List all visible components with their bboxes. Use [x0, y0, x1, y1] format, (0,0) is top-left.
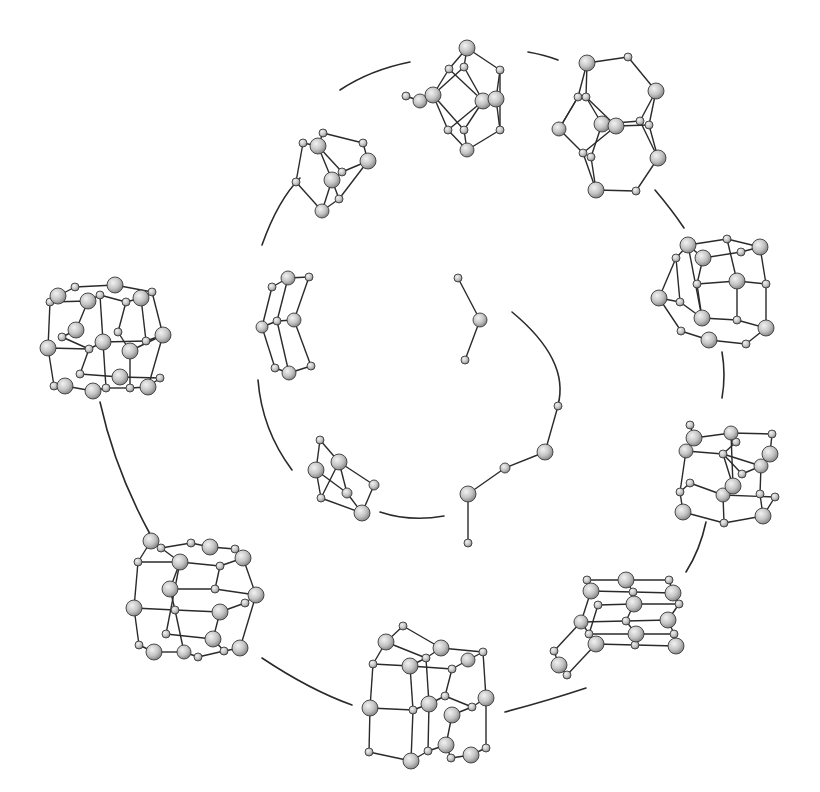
small-atom-sphere — [241, 599, 249, 607]
large-atom-sphere — [287, 313, 301, 327]
large-atom-sphere — [57, 378, 73, 394]
spiral-arc-segment — [100, 402, 150, 534]
small-atom-sphere — [256, 321, 268, 333]
spiral-arc-segment — [380, 512, 444, 518]
small-atom-sphere — [317, 494, 325, 502]
small-atom-sphere — [500, 463, 510, 473]
large-atom-sphere — [650, 150, 666, 166]
large-atom-sphere — [626, 596, 642, 612]
spiral-arc-segment — [505, 688, 586, 712]
small-atom-sphere — [85, 345, 93, 353]
small-atom-sphere — [316, 436, 324, 444]
large-atom-sphere — [177, 645, 191, 659]
small-atom-sphere — [670, 630, 678, 638]
small-atom-sphere — [574, 93, 582, 101]
large-atom-sphere — [143, 533, 159, 549]
large-atom-sphere — [680, 237, 696, 253]
cluster-1-trimer — [454, 274, 487, 364]
large-atom-sphere — [310, 138, 326, 154]
bond-line — [277, 321, 289, 373]
spiral-arc-segment — [262, 658, 352, 705]
cluster-group — [40, 40, 779, 769]
small-atom-sphere — [338, 168, 346, 176]
small-atom-sphere — [96, 291, 104, 299]
spiral-arc-segment — [722, 352, 724, 398]
large-atom-sphere — [488, 91, 504, 107]
large-atom-sphere — [354, 505, 370, 521]
large-atom-sphere — [463, 747, 479, 763]
spiral-arc-segment — [655, 190, 684, 228]
large-atom-sphere — [460, 143, 474, 157]
large-atom-sphere — [594, 116, 610, 132]
small-atom-sphere — [632, 187, 640, 195]
small-atom-sphere — [624, 53, 632, 61]
large-atom-sphere — [95, 334, 111, 350]
small-atom-sphere — [733, 316, 741, 324]
large-atom-sphere — [588, 182, 604, 198]
cluster-2-chain — [460, 402, 562, 547]
large-atom-sphere — [686, 430, 702, 446]
small-atom-sphere — [693, 280, 701, 288]
small-atom-sphere — [762, 280, 770, 288]
cluster-3 — [308, 436, 379, 521]
large-atom-sphere — [112, 369, 128, 385]
small-atom-sphere — [686, 479, 694, 487]
small-atom-sphere — [496, 126, 504, 134]
small-atom-sphere — [187, 539, 195, 547]
small-atom-sphere — [445, 65, 453, 73]
small-atom-sphere — [142, 337, 150, 345]
large-atom-sphere — [378, 634, 394, 650]
small-atom-sphere — [677, 327, 685, 335]
small-atom-sphere — [738, 470, 746, 478]
small-atom-sphere — [424, 747, 432, 755]
large-atom-sphere — [551, 657, 567, 673]
large-atom-sphere — [248, 587, 264, 603]
large-atom-sphere — [146, 644, 162, 660]
small-atom-sphere — [134, 558, 142, 566]
small-atom-sphere — [71, 283, 79, 291]
large-atom-sphere — [68, 322, 84, 338]
large-atom-sphere — [660, 612, 676, 628]
cluster-10 — [550, 572, 684, 679]
small-atom-sphere — [675, 600, 683, 608]
cluster-8 — [651, 235, 774, 348]
small-atom-sphere — [460, 126, 468, 134]
small-atom-sphere — [636, 117, 644, 125]
large-atom-sphere — [282, 366, 296, 380]
small-atom-sphere — [676, 298, 684, 306]
large-atom-sphere — [461, 653, 475, 667]
small-atom-sphere — [461, 356, 469, 364]
large-atom-sphere — [438, 737, 454, 753]
small-atom-sphere — [369, 480, 379, 490]
large-atom-sphere — [403, 753, 419, 769]
large-atom-sphere — [574, 615, 588, 629]
small-atom-sphere — [460, 63, 468, 71]
large-atom-sphere — [172, 554, 188, 570]
small-atom-sphere — [335, 195, 343, 203]
large-atom-sphere — [140, 379, 156, 395]
large-atom-sphere — [695, 250, 711, 266]
spiral-arc-segment — [528, 52, 558, 60]
small-atom-sphere — [58, 333, 66, 341]
large-atom-sphere — [618, 572, 634, 588]
small-atom-sphere — [422, 654, 430, 662]
large-atom-sphere — [628, 626, 644, 642]
large-atom-sphere — [752, 239, 768, 255]
large-atom-sphere — [402, 658, 418, 674]
small-atom-sphere — [737, 248, 745, 256]
small-atom-sphere — [587, 153, 595, 161]
small-atom-sphere — [162, 630, 170, 638]
spiral-arc-segment — [512, 312, 560, 405]
small-atom-sphere — [768, 430, 776, 438]
small-atom-sphere — [171, 606, 179, 614]
small-atom-sphere — [686, 421, 694, 429]
large-atom-sphere — [651, 290, 667, 306]
small-atom-sphere — [441, 692, 449, 700]
small-atom-sphere — [399, 622, 407, 630]
large-atom-sphere — [360, 153, 376, 169]
small-atom-sphere — [554, 402, 562, 410]
large-atom-sphere — [679, 444, 693, 458]
small-atom-sphere — [723, 235, 731, 243]
small-atom-sphere — [719, 450, 727, 458]
small-atom-sphere — [365, 748, 373, 756]
